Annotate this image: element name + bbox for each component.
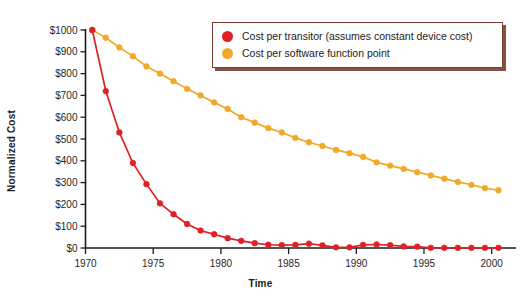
svg-text:$700: $700 bbox=[55, 90, 78, 101]
svg-text:$1000: $1000 bbox=[50, 25, 78, 36]
chart-legend: Cost per transitor (assumes constant dev… bbox=[212, 22, 503, 68]
svg-text:$200: $200 bbox=[55, 199, 78, 210]
svg-text:$0: $0 bbox=[66, 243, 78, 254]
svg-text:$400: $400 bbox=[55, 155, 78, 166]
svg-text:1990: 1990 bbox=[345, 258, 368, 269]
chart-figure: $0$100$200$300$400$500$600$700$800$900$1… bbox=[0, 0, 521, 301]
y-axis-label: Normalized Cost bbox=[6, 110, 17, 192]
svg-text:$600: $600 bbox=[55, 112, 78, 123]
y-axis-label-wrap: Normalized Cost bbox=[6, 110, 24, 192]
svg-text:$100: $100 bbox=[55, 221, 78, 232]
svg-text:1995: 1995 bbox=[413, 258, 436, 269]
legend-label-software: Cost per software function point bbox=[242, 48, 390, 59]
legend-swatch-orange bbox=[222, 48, 233, 59]
svg-text:2000: 2000 bbox=[481, 258, 504, 269]
x-axis-label: Time bbox=[0, 278, 521, 289]
legend-item-software: Cost per software function point bbox=[222, 45, 494, 62]
svg-text:1975: 1975 bbox=[142, 258, 165, 269]
svg-text:$500: $500 bbox=[55, 134, 78, 145]
svg-text:$900: $900 bbox=[55, 46, 78, 57]
legend-item-transistor: Cost per transitor (assumes constant dev… bbox=[222, 28, 494, 45]
svg-text:1970: 1970 bbox=[74, 258, 97, 269]
svg-text:1985: 1985 bbox=[277, 258, 300, 269]
svg-text:$800: $800 bbox=[55, 68, 78, 79]
svg-text:$300: $300 bbox=[55, 177, 78, 188]
legend-swatch-red bbox=[222, 31, 233, 42]
svg-text:1980: 1980 bbox=[210, 258, 233, 269]
legend-label-transistor: Cost per transitor (assumes constant dev… bbox=[242, 31, 473, 42]
